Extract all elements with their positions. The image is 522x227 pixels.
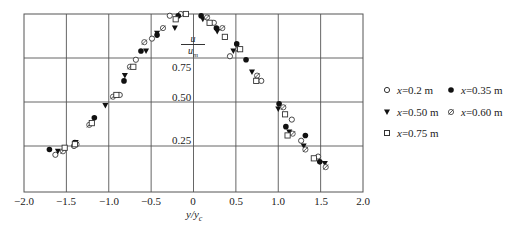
x-tick-label: 1.0 xyxy=(271,195,285,207)
open-circle-marker xyxy=(53,152,58,157)
open-circle-marker xyxy=(149,36,154,41)
legend: x=0.2 m x=0.35 m x=0.50 m x=0.60 m x=0.7… xyxy=(383,84,522,154)
open-square-marker xyxy=(89,121,94,126)
filled-circle-marker xyxy=(317,159,323,165)
y-axis-label-numerator: u xyxy=(181,33,205,45)
x-tick-label: 0 xyxy=(190,195,196,207)
filled-circle-marker xyxy=(243,57,249,63)
filled-circle-marker xyxy=(303,133,309,139)
x-tick-label: −1.5 xyxy=(56,195,76,207)
filled-triangle-down-marker xyxy=(249,70,255,76)
slashed-circle-marker xyxy=(323,165,328,170)
x-axis-label-sub: c xyxy=(199,214,203,223)
open-square-icon xyxy=(383,129,391,137)
y-axis-label-denominator: um xyxy=(181,45,205,61)
open-circle-marker xyxy=(259,78,264,83)
open-circle-icon xyxy=(383,86,391,94)
slashed-circle-marker xyxy=(142,40,147,45)
open-square-marker xyxy=(173,17,178,22)
legend-item-x-0-60: x=0.60 m xyxy=(447,106,503,118)
slashed-circle-marker xyxy=(303,147,308,152)
filled-circle-marker xyxy=(121,78,127,84)
open-square-marker xyxy=(222,34,227,39)
filled-circle-marker xyxy=(234,41,240,47)
x-tick-label: −2.0 xyxy=(14,195,34,207)
slashed-circle-marker xyxy=(281,105,286,110)
x-tick-label: 2.0 xyxy=(356,195,370,207)
x-tick-label: 1.5 xyxy=(314,195,328,207)
triangle-down-icon xyxy=(383,108,391,116)
open-square-marker xyxy=(183,11,188,16)
filled-triangle-down-marker xyxy=(143,48,149,54)
slashed-circle-marker xyxy=(254,73,259,78)
slashed-circle-marker xyxy=(204,15,209,20)
legend-item-x-0-2: x=0.2 m xyxy=(383,84,433,96)
open-circle-marker xyxy=(227,54,232,59)
legend-item-x-0-75: x=0.75 m xyxy=(383,127,439,139)
filled-triangle-down-marker xyxy=(214,29,220,34)
open-square-marker xyxy=(254,78,259,83)
open-square-marker xyxy=(238,47,243,52)
open-square-marker xyxy=(72,142,77,147)
open-circle-marker xyxy=(167,13,172,18)
y-axis-label-den-sub: m xyxy=(193,51,198,59)
x-axis-label-text: y/y xyxy=(186,208,199,220)
open-square-marker xyxy=(285,133,290,138)
legend-label: =0.75 m xyxy=(402,127,439,139)
y-tick-label: 0.75 xyxy=(172,61,191,73)
slashed-circle-marker xyxy=(160,25,165,30)
filled-circle-icon xyxy=(447,86,455,94)
legend-label: =0.35 m xyxy=(466,84,503,96)
open-circle-marker xyxy=(289,117,294,122)
open-circle-marker xyxy=(299,138,304,143)
filled-triangle-down-marker xyxy=(102,103,108,109)
y-tick-label: 0.50 xyxy=(172,91,191,103)
legend-label: =0.50 m xyxy=(402,106,439,118)
open-square-marker xyxy=(131,64,136,69)
filled-triangle-down-marker xyxy=(122,73,128,79)
legend-item-x-0-35: x=0.35 m xyxy=(447,84,503,96)
open-square-marker xyxy=(62,145,67,150)
legend-item-x-0-50: x=0.50 m xyxy=(383,106,439,118)
slashed-circle-marker xyxy=(220,25,225,30)
filled-circle-marker xyxy=(138,48,144,54)
slashed-circle-icon xyxy=(447,108,455,116)
open-square-marker xyxy=(282,112,287,117)
legend-label: =0.60 m xyxy=(466,106,503,118)
x-tick-label: 0.5 xyxy=(229,195,243,207)
filled-triangle-down-marker xyxy=(172,26,178,32)
y-axis-label: u um xyxy=(181,33,205,61)
filled-circle-marker xyxy=(47,147,53,153)
open-square-marker xyxy=(207,20,212,25)
x-tick-label: −0.5 xyxy=(141,195,161,207)
legend-label: =0.2 m xyxy=(402,84,433,96)
filled-circle-marker xyxy=(283,124,289,130)
slashed-circle-marker xyxy=(290,131,295,136)
x-tick-label: −1.0 xyxy=(99,195,119,207)
open-square-marker xyxy=(114,92,119,97)
open-circle-marker xyxy=(133,57,138,62)
open-square-marker xyxy=(311,156,316,161)
x-axis-label: y/yc xyxy=(186,208,202,223)
filled-circle-marker xyxy=(92,115,98,121)
y-tick-label: 0.25 xyxy=(172,134,191,146)
